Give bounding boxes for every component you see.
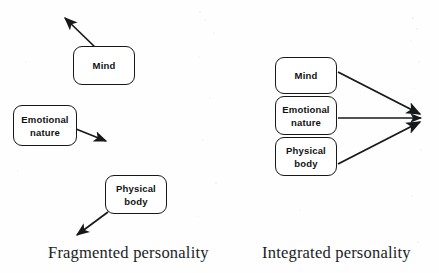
panel-integrated-personality: Mind Emotional nature Physical body Inte… (0, 0, 439, 273)
node-label: Physical body (284, 144, 328, 170)
node-physical-body-right: Physical body (275, 137, 337, 176)
node-emotional-nature-right: Emotional nature (275, 96, 337, 135)
node-mind-right: Mind (275, 57, 337, 94)
node-label: Mind (293, 69, 320, 82)
figure-canvas: Mind Emotional nature Physical body Frag… (0, 0, 439, 273)
caption-integrated-personality: Integrated personality (262, 243, 411, 263)
node-label: Emotional nature (280, 103, 331, 129)
